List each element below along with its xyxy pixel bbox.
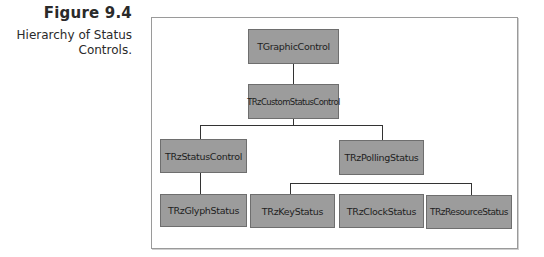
node-trzkeystatus: TRzKeyStatus [250, 194, 335, 228]
node-trzstatuscontrol: TRzStatusControl [160, 139, 247, 173]
connector-to-resourcestatus [471, 183, 472, 195]
figure-number: Figure 9.4 [44, 4, 132, 22]
node-trzpollingstatus: TRzPollingStatus [339, 140, 424, 175]
node-tgraphiccontrol: TGraphicControl [248, 29, 339, 64]
figure-caption: Hierarchy of Status Controls. [2, 28, 132, 58]
connector-level2-horizontal [200, 125, 383, 126]
connector-level3-horizontal [290, 183, 472, 184]
node-trzclockstatus: TRzClockStatus [339, 194, 424, 228]
connector-to-keystatus [290, 183, 291, 194]
connector-to-pollingstatus [382, 125, 383, 140]
node-trzcustomstatuscontrol: TRzCustomStatusControl [248, 84, 339, 119]
node-trzresourcestatus: TRzResourceStatus [426, 195, 512, 229]
connector-to-statuscontrol [200, 125, 201, 139]
connector-graphic-to-custom [293, 64, 294, 84]
node-trzglyphstatus: TRzGlyphStatus [160, 194, 247, 227]
connector-statuscontrol-to-glyph [200, 173, 201, 194]
